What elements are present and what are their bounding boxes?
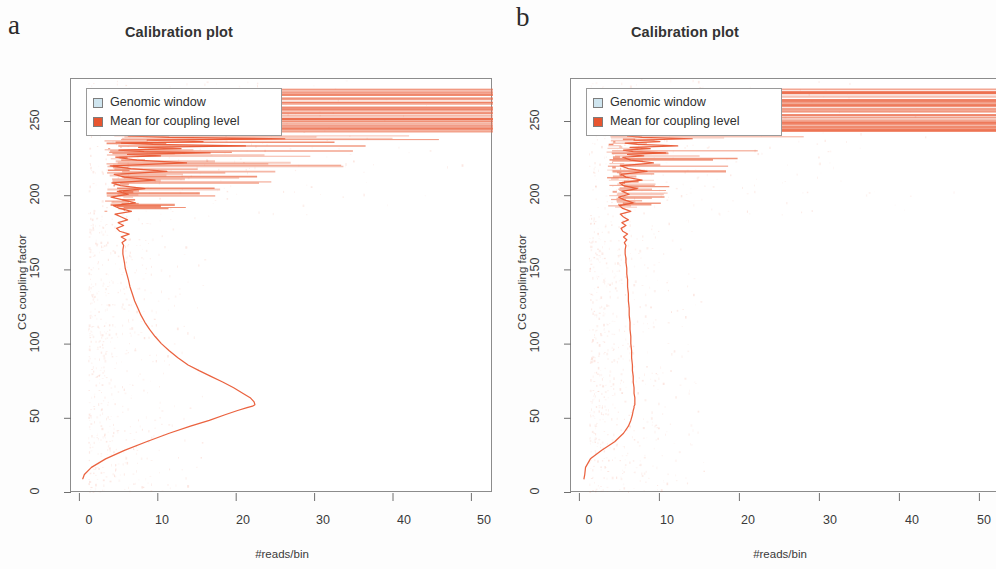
panel-a-legend: Genomic window Mean for coupling level bbox=[86, 88, 282, 136]
panel-b-xtick-0: 0 bbox=[579, 513, 599, 527]
panel-b: b Calibration plot CG coupling factor 0 … bbox=[498, 0, 996, 569]
panel-b-xtick-50: 50 bbox=[974, 513, 994, 527]
genomic-window-swatch-icon bbox=[93, 98, 103, 108]
mean-coupling-swatch-icon bbox=[593, 117, 603, 127]
panel-b-ytick-100: 100 bbox=[528, 327, 542, 357]
panel-b-data-canvas bbox=[571, 79, 996, 493]
panel-a-xtick-10: 10 bbox=[152, 513, 172, 527]
genomic-window-swatch-icon bbox=[593, 98, 603, 108]
panel-b-x-axis-label: #reads/bin bbox=[570, 548, 990, 560]
panel-b-y-axis-label: CG coupling factor bbox=[516, 235, 528, 330]
panel-a-x-axis-label: #reads/bin bbox=[70, 548, 494, 560]
panel-a-xtick-0: 0 bbox=[79, 513, 99, 527]
panel-a-x-ticks bbox=[70, 492, 494, 508]
panel-a-ytick-250: 250 bbox=[28, 105, 42, 135]
panel-a-xtick-40: 40 bbox=[394, 513, 414, 527]
panel-b-y-ticks bbox=[556, 78, 572, 494]
panel-a-ytick-0: 0 bbox=[28, 480, 42, 502]
panel-a-ytick-50: 50 bbox=[28, 405, 42, 427]
panel-a-legend-item-mean-coupling: Mean for coupling level bbox=[93, 113, 273, 130]
panel-a-legend-label-genomic-window: Genomic window bbox=[110, 96, 206, 109]
panel-b-xtick-30: 30 bbox=[820, 513, 840, 527]
panel-a-title: Calibration plot bbox=[0, 24, 428, 40]
panel-a-y-axis-label: CG coupling factor bbox=[16, 235, 28, 330]
panel-b-x-ticks bbox=[570, 492, 996, 508]
panel-a-xtick-20: 20 bbox=[233, 513, 253, 527]
panel-a-legend-item-genomic-window: Genomic window bbox=[93, 94, 273, 111]
panel-b-plot-area bbox=[570, 78, 996, 492]
panel-b-legend-label-genomic-window: Genomic window bbox=[610, 96, 706, 109]
panel-b-legend-item-mean-coupling: Mean for coupling level bbox=[593, 113, 773, 130]
panel-a-y-ticks bbox=[56, 78, 72, 494]
panel-b-ytick-200: 200 bbox=[528, 179, 542, 209]
panel-b-ytick-0: 0 bbox=[528, 480, 542, 502]
panel-a-data-canvas bbox=[71, 79, 493, 493]
panel-b-ytick-150: 150 bbox=[528, 253, 542, 283]
panel-b-legend-label-mean-coupling: Mean for coupling level bbox=[610, 115, 740, 128]
panel-a-legend-label-mean-coupling: Mean for coupling level bbox=[110, 115, 240, 128]
mean-coupling-swatch-icon bbox=[93, 117, 103, 127]
panel-a-plot-area bbox=[70, 78, 492, 492]
panel-b-ytick-250: 250 bbox=[528, 105, 542, 135]
panel-b-legend-item-genomic-window: Genomic window bbox=[593, 94, 773, 111]
panel-b-title: Calibration plot bbox=[436, 24, 934, 40]
panel-b-ytick-50: 50 bbox=[528, 405, 542, 427]
panel-a-ytick-200: 200 bbox=[28, 179, 42, 209]
calibration-figure: a Calibration plot CG coupling factor 0 … bbox=[0, 0, 996, 569]
panel-b-xtick-10: 10 bbox=[657, 513, 677, 527]
panel-a-ytick-100: 100 bbox=[28, 327, 42, 357]
panel-b-xtick-40: 40 bbox=[902, 513, 922, 527]
panel-b-legend: Genomic window Mean for coupling level bbox=[586, 88, 782, 136]
panel-a-ytick-150: 150 bbox=[28, 253, 42, 283]
panel-a: a Calibration plot CG coupling factor 0 … bbox=[0, 0, 498, 569]
panel-a-xtick-30: 30 bbox=[313, 513, 333, 527]
panel-a-xtick-50: 50 bbox=[474, 513, 494, 527]
panel-b-xtick-20: 20 bbox=[738, 513, 758, 527]
